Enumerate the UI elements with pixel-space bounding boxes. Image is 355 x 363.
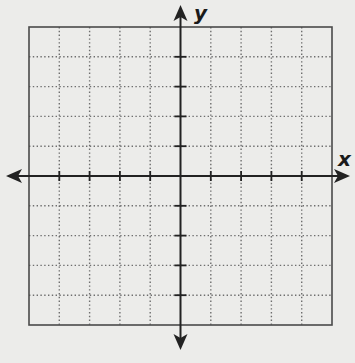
y-axis-label: y bbox=[194, 3, 207, 23]
x-axis-label: x bbox=[338, 149, 351, 169]
coordinate-grid bbox=[0, 0, 355, 363]
coordinate-plane: y x bbox=[0, 0, 355, 363]
